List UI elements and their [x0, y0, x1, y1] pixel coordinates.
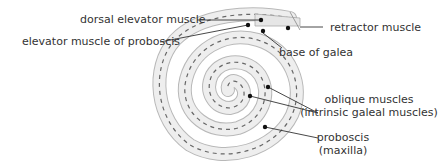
label-elevator-muscle-of-proboscis: elevator muscle of proboscis — [22, 35, 180, 48]
label-oblique-muscles: oblique muscles (intrinsic galeal muscle… — [294, 93, 438, 119]
label-retractor-muscle: retractor muscle — [330, 21, 421, 34]
label-proboscis-line1: proboscis — [308, 131, 378, 144]
label-proboscis: proboscis (maxilla) — [308, 131, 378, 157]
proboscis-diagram: dorsal elevator muscle elevator muscle o… — [0, 0, 438, 164]
label-oblique-line2: (intrinsic galeal muscles) — [294, 106, 438, 119]
label-base-of-galea: base of galea — [279, 46, 353, 59]
label-proboscis-line2: (maxilla) — [308, 144, 378, 157]
label-oblique-line1: oblique muscles — [294, 93, 438, 106]
label-dorsal-elevator-muscle: dorsal elevator muscle — [80, 13, 205, 26]
